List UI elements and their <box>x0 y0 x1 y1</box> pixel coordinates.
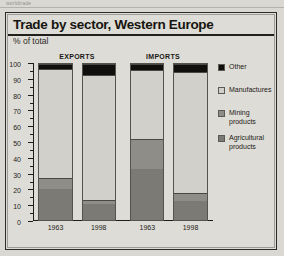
bar-exports-1963[interactable] <box>38 63 72 221</box>
y-axis-tick-label: 90 <box>13 76 21 83</box>
bar-segment-agricultural-products[interactable] <box>39 189 71 220</box>
legend-label: Mining products <box>229 109 275 126</box>
bar-segment-manufactures[interactable] <box>83 75 115 200</box>
legend-item-other[interactable]: Other <box>218 63 247 72</box>
bar-segment-other[interactable] <box>174 64 206 72</box>
group-label-exports: EXPORTS <box>36 53 118 60</box>
x-axis-label: 1963 <box>140 224 156 231</box>
legend-label: Agricultural products <box>229 134 275 151</box>
bar-segment-mining-products[interactable] <box>174 193 206 201</box>
bar-imports-1963[interactable] <box>130 63 164 221</box>
chart-panel: Trade by sector, Western Europe % of tot… <box>5 12 277 250</box>
y-axis-tick-label: 10 <box>13 203 21 210</box>
chart-subtitle: % of total <box>13 36 48 46</box>
chart-title: Trade by sector, Western Europe <box>13 17 214 32</box>
bar-segment-agricultural-products[interactable] <box>131 169 163 220</box>
group-label-imports: IMPORTS <box>120 53 206 60</box>
y-axis-tick-label: 70 <box>13 108 21 115</box>
bar-imports-1998[interactable] <box>173 63 207 221</box>
x-axis-label: 1963 <box>48 224 64 231</box>
legend-swatch-icon <box>218 110 225 117</box>
page-divider-rule <box>0 7 284 8</box>
bar-segment-other[interactable] <box>39 64 71 69</box>
bar-segment-mining-products[interactable] <box>131 139 163 169</box>
y-axis-tick-label: 20 <box>13 187 21 194</box>
page-top-text-fragment: worldtrade <box>6 0 156 7</box>
y-axis-tick-label: 40 <box>13 155 21 162</box>
bar-segment-agricultural-products[interactable] <box>174 201 206 220</box>
legend-label: Other <box>229 63 247 72</box>
y-axis-tick-label: 30 <box>13 171 21 178</box>
y-axis-tick-label: 60 <box>13 124 21 131</box>
bar-segment-mining-products[interactable] <box>39 178 71 189</box>
bar-segment-manufactures[interactable] <box>131 70 163 139</box>
plot-area: 1009080706050403020100 1963199819631998 <box>33 63 213 221</box>
legend-swatch-icon <box>218 87 225 94</box>
bar-exports-1998[interactable] <box>82 63 116 221</box>
bar-segment-agricultural-products[interactable] <box>83 204 115 220</box>
legend-swatch-icon <box>218 64 225 71</box>
y-axis-tick-label: 100 <box>9 61 21 68</box>
bar-segment-manufactures[interactable] <box>174 72 206 194</box>
y-axis-tick: 0 <box>28 221 33 222</box>
x-axis-label: 1998 <box>183 224 199 231</box>
legend-item-mining-products[interactable]: Mining products <box>218 109 275 126</box>
bar-segment-other[interactable] <box>83 64 115 75</box>
bars-container: 1963199819631998 <box>33 63 213 221</box>
y-axis-tick-label: 80 <box>13 92 21 99</box>
legend-label: Manufactures <box>229 86 271 95</box>
y-axis-tick-label: 50 <box>13 140 21 147</box>
x-axis-label: 1998 <box>91 224 107 231</box>
bar-segment-manufactures[interactable] <box>39 69 71 178</box>
legend-item-manufactures[interactable]: Manufactures <box>218 86 271 95</box>
y-axis-tick-label: 0 <box>17 219 21 226</box>
legend-item-agricultural-products[interactable]: Agricultural products <box>218 134 275 151</box>
bar-segment-mining-products[interactable] <box>83 200 115 205</box>
bar-segment-other[interactable] <box>131 64 163 70</box>
legend-swatch-icon <box>218 135 225 142</box>
